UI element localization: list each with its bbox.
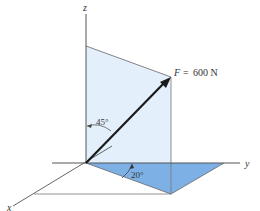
x-axis-label: x [6,202,12,211]
force-magnitude: 600 N [193,67,218,78]
horizontal-projection-triangle [86,163,224,194]
angle-label-45: 45° [96,117,109,127]
force-symbol: F [173,67,181,78]
force-equals: = [183,67,189,78]
x-axis [13,146,112,206]
z-axis-label: z [82,2,87,13]
y-axis-label: y [244,158,250,169]
angle-label-20: 20° [131,170,144,180]
force-diagram: z y x F = 600 N 45° 20° [0,0,260,211]
